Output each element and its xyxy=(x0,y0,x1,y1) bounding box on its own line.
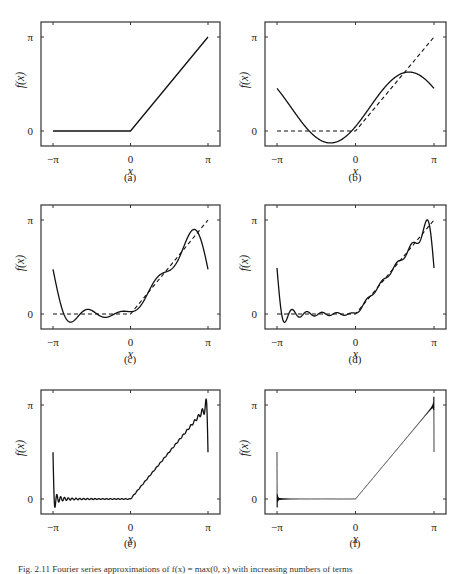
y-tick-label: π xyxy=(251,31,257,43)
plot-svg: −π0π0πxf(x) xyxy=(224,183,463,373)
approximation-curve xyxy=(53,399,208,507)
y-tick-label: π xyxy=(251,399,257,411)
x-tick-label: π xyxy=(205,521,211,533)
panel-label-a: (a) xyxy=(110,171,150,183)
y-axis-label: f(x) xyxy=(13,255,27,272)
y-axis-label: f(x) xyxy=(13,72,27,89)
axes-frame xyxy=(41,22,220,146)
panel-c: −π0π0πxf(x) xyxy=(0,183,231,373)
axes-frame xyxy=(41,390,220,514)
y-tick-label: 0 xyxy=(252,493,258,505)
x-tick-label: −π xyxy=(47,153,59,165)
approximation-curve xyxy=(277,397,434,508)
axes-frame xyxy=(41,205,220,329)
y-axis-label: f(x) xyxy=(237,440,251,457)
y-tick-label: 0 xyxy=(28,308,34,320)
y-tick-label: π xyxy=(251,214,257,226)
axes-frame xyxy=(265,390,446,514)
y-axis-label: f(x) xyxy=(13,440,27,457)
y-axis-label: f(x) xyxy=(237,255,251,272)
x-tick-label: −π xyxy=(47,336,59,348)
target-function-dashed xyxy=(53,220,208,314)
x-tick-label: π xyxy=(431,521,437,533)
y-tick-label: 0 xyxy=(28,493,34,505)
axes-frame xyxy=(265,205,446,329)
plot-svg: −π0π0πxf(x) xyxy=(224,368,463,558)
y-tick-label: π xyxy=(27,214,33,226)
panel-a: −π0π0πxf(x) xyxy=(0,0,231,190)
plot-svg: −π0π0πxf(x) xyxy=(0,368,231,558)
target-function-dashed xyxy=(277,220,434,314)
plot-svg: −π0π0πxf(x) xyxy=(0,0,231,190)
approximation-curve xyxy=(277,72,434,143)
approximation-curve xyxy=(53,229,208,322)
panel-label-c: (c) xyxy=(110,353,150,365)
panel-e: −π0π0πxf(x) xyxy=(0,368,231,558)
x-tick-label: −π xyxy=(271,153,283,165)
figure: −π0π0πxf(x) −π0π0πxf(x) −π0π0πxf(x) −π0π… xyxy=(0,0,463,574)
y-tick-label: π xyxy=(27,31,33,43)
panel-label-b: (b) xyxy=(335,171,375,183)
panel-label-d: (d) xyxy=(335,353,375,365)
approximation-curve xyxy=(277,220,434,322)
plot-svg: −π0π0πxf(x) xyxy=(0,183,231,373)
x-tick-label: π xyxy=(205,336,211,348)
panel-f: −π0π0πxf(x) xyxy=(224,368,463,558)
y-axis-label: f(x) xyxy=(237,72,251,89)
x-tick-label: −π xyxy=(271,521,283,533)
x-tick-label: π xyxy=(431,153,437,165)
y-tick-label: 0 xyxy=(252,308,258,320)
x-tick-label: −π xyxy=(271,336,283,348)
y-tick-label: π xyxy=(27,399,33,411)
panel-label-e: (e) xyxy=(110,537,150,549)
x-tick-label: π xyxy=(205,153,211,165)
target-function-dashed xyxy=(277,37,434,131)
x-tick-label: −π xyxy=(47,521,59,533)
approximation-curve xyxy=(53,37,208,131)
y-tick-label: 0 xyxy=(252,125,258,137)
y-tick-label: 0 xyxy=(28,125,34,137)
figure-caption: Fig. 2.11 Fourier series approximations … xyxy=(18,564,458,574)
panel-b: −π0π0πxf(x) xyxy=(224,0,463,190)
x-tick-label: π xyxy=(431,336,437,348)
plot-svg: −π0π0πxf(x) xyxy=(224,0,463,190)
panel-d: −π0π0πxf(x) xyxy=(224,183,463,373)
panel-label-f: (f) xyxy=(335,537,375,549)
